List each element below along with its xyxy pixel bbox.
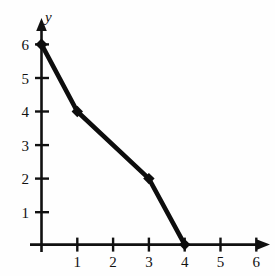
- x-tick-label-3: 3: [145, 254, 153, 270]
- data-series-line: [42, 44, 185, 244]
- x-tick-label-1: 1: [74, 254, 82, 270]
- y-tick-label-5: 5: [22, 71, 30, 87]
- y-tick-label-4: 4: [22, 104, 30, 120]
- y-axis-label: y: [43, 9, 52, 25]
- y-tick-label-1: 1: [22, 205, 30, 221]
- x-tick-label-5: 5: [217, 254, 225, 270]
- x-tick-label-2: 2: [109, 254, 117, 270]
- line-chart-plot: y 6 5 4 3 2 1 1 2 3 4 5 6: [0, 0, 275, 276]
- x-axis-arrow-icon: [257, 239, 270, 249]
- x-tick-label-6: 6: [253, 254, 261, 270]
- y-tick-label-2: 2: [22, 171, 30, 187]
- chart-figure: y 6 5 4 3 2 1 1 2 3 4 5 6: [0, 0, 275, 276]
- y-tick-label-3: 3: [22, 138, 30, 154]
- y-tick-label-6: 6: [22, 37, 30, 53]
- x-tick-label-4: 4: [181, 254, 189, 270]
